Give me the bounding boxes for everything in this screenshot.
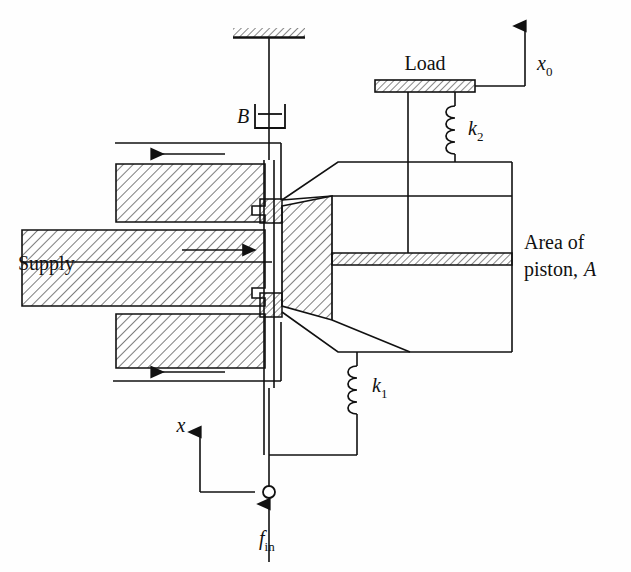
walking-beam-linkage bbox=[282, 196, 332, 320]
x0-label: x0 bbox=[536, 52, 552, 79]
spring-k2 bbox=[446, 92, 455, 162]
figure-root: Supply Load B k2 k1 x0 x fin Area of pis… bbox=[0, 0, 631, 572]
input-pivot-joint bbox=[263, 486, 275, 498]
load-label: Load bbox=[404, 52, 445, 74]
damper-label: B bbox=[237, 105, 249, 127]
spring-k2-subscript: 2 bbox=[477, 129, 484, 144]
damper-B bbox=[255, 38, 285, 161]
piston-area-symbol: A bbox=[582, 258, 597, 280]
spring-k1-subscript: 1 bbox=[381, 386, 388, 401]
fin-subscript: in bbox=[265, 539, 276, 554]
power-piston bbox=[332, 253, 512, 265]
piston-area-label-line1: Area of bbox=[524, 231, 585, 253]
supply-label: Supply bbox=[18, 252, 75, 275]
x-datum-arrow bbox=[200, 432, 255, 492]
hydraulic-servo-diagram: Supply Load B k2 k1 x0 x fin Area of pis… bbox=[0, 0, 631, 572]
spring-k1 bbox=[348, 352, 357, 455]
piston-area-text: piston, bbox=[524, 258, 578, 281]
spring-k2-label: k2 bbox=[468, 117, 483, 144]
piston-area-label-line2: piston,A bbox=[524, 258, 597, 281]
x0-symbol: x bbox=[536, 52, 546, 74]
x0-datum-arrow bbox=[475, 26, 525, 86]
load-platform bbox=[375, 80, 475, 92]
spring-k1-label: k1 bbox=[372, 374, 387, 401]
x-label: x bbox=[176, 414, 186, 436]
fin-label: fin bbox=[259, 527, 275, 554]
x0-subscript: 0 bbox=[546, 64, 553, 79]
ground-support bbox=[233, 28, 305, 38]
valve-spool bbox=[260, 160, 282, 486]
